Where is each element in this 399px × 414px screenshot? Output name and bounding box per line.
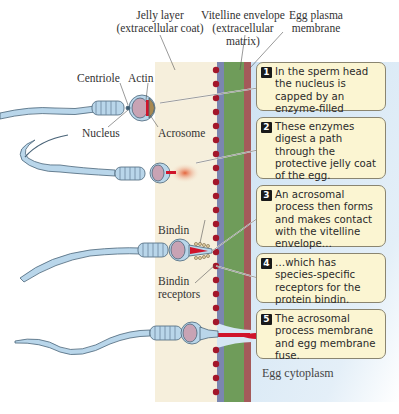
step-3-callout: 3 An acrosomal process then forms and ma… (256, 185, 386, 247)
actin-label: Actin (128, 72, 154, 85)
step-2-text: These enzymes digest a path through the … (275, 121, 376, 181)
step-3-text: An acrosomal process then forms and make… (275, 189, 373, 249)
bindin-receptors-label: Bindin receptors (158, 275, 200, 301)
bindin-receptors-title-2: receptors (158, 288, 200, 301)
step-4-callout: 4 …which has species-specific receptors … (256, 253, 386, 303)
step-5-text: The acrosomal process membrane and egg m… (275, 313, 376, 361)
acrosome-label: Acrosome (158, 127, 205, 140)
egg-membrane-title-1: Egg plasma (276, 9, 356, 22)
step-2-callout: 2 These enzymes digest a path through th… (256, 117, 386, 179)
step-1-callout: 1 In the sperm head the nucleus is cappe… (256, 62, 386, 111)
step-3-number-badge: 3 (261, 190, 272, 201)
step-4-number-badge: 4 (261, 258, 272, 269)
nucleus-label: Nucleus (82, 127, 120, 140)
bindin-receptors-title-1: Bindin (158, 275, 200, 288)
egg-cytoplasm-label: Egg cytoplasm (262, 366, 334, 381)
egg-membrane-title-2: membrane (276, 22, 356, 35)
egg-plasma-membrane-label: Egg plasma membrane (276, 9, 356, 35)
bindin-label: Bindin (158, 224, 189, 237)
vitelline-subtitle-2: matrix) (188, 35, 298, 48)
step-4-text: …which has species-specific receptors fo… (275, 257, 361, 305)
centriole-label: Centriole (77, 72, 120, 85)
sperm-1 (0, 95, 155, 121)
plasma-membrane-band (244, 62, 251, 402)
step-2-number-badge: 2 (261, 122, 272, 133)
fertilization-diagram: Jelly layer (extracellular coat) Vitelli… (0, 0, 399, 414)
step-5-callout: 5 The acrosomal process membrane and egg… (256, 309, 386, 359)
vitelline-green-band (224, 62, 244, 402)
step-1-number-badge: 1 (261, 67, 272, 78)
step-5-number-badge: 5 (261, 314, 272, 325)
